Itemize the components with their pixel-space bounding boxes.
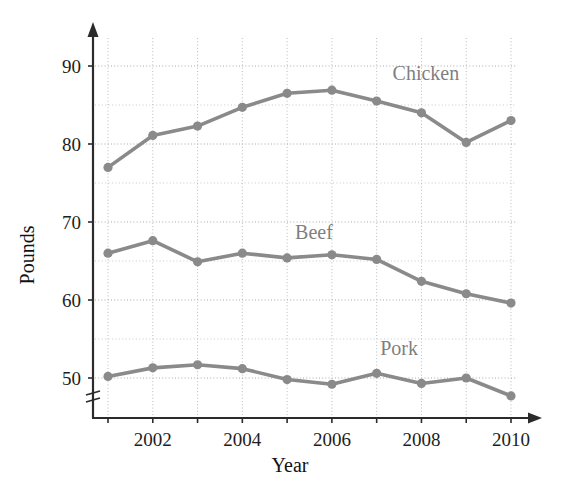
data-point-chicken-2004 xyxy=(238,103,247,112)
data-point-chicken-2007 xyxy=(372,97,381,106)
data-point-beef-2010 xyxy=(506,299,515,308)
data-point-beef-2008 xyxy=(417,277,426,286)
y-tick-label-80: 80 xyxy=(62,134,81,155)
line-chart: 5060708090 20022004200620082010 ChickenB… xyxy=(0,0,572,490)
series-label-beef: Beef xyxy=(295,221,333,243)
data-point-pork-2010 xyxy=(506,391,515,400)
series-label-pork: Pork xyxy=(380,337,418,359)
y-axis-title: Pounds xyxy=(16,225,38,284)
data-point-pork-2003 xyxy=(193,360,202,369)
x-axis-arrow-icon xyxy=(528,413,542,424)
data-point-chicken-2008 xyxy=(417,108,426,117)
data-point-chicken-2006 xyxy=(327,86,336,95)
data-point-pork-2006 xyxy=(327,380,336,389)
data-point-chicken-2005 xyxy=(283,89,292,98)
y-tick-labels: 5060708090 xyxy=(62,56,81,389)
data-point-pork-2001 xyxy=(103,372,112,381)
x-tick-label-2006: 2006 xyxy=(313,429,351,450)
data-point-chicken-2003 xyxy=(193,121,202,130)
chart-canvas: 5060708090 20022004200620082010 ChickenB… xyxy=(0,0,572,490)
data-point-pork-2004 xyxy=(238,364,247,373)
data-point-beef-2001 xyxy=(103,249,112,258)
data-point-beef-2009 xyxy=(462,289,471,298)
x-tick-label-2008: 2008 xyxy=(402,429,440,450)
series-line-beef xyxy=(108,241,511,303)
data-point-chicken-2002 xyxy=(148,131,157,140)
data-point-beef-2003 xyxy=(193,257,202,266)
data-point-chicken-2010 xyxy=(506,116,515,125)
data-point-pork-2005 xyxy=(283,375,292,384)
data-point-pork-2002 xyxy=(148,363,157,372)
y-tick-label-60: 60 xyxy=(62,290,81,311)
series-labels: ChickenBeefPork xyxy=(295,62,459,359)
y-tick-label-50: 50 xyxy=(62,368,81,389)
data-point-beef-2002 xyxy=(148,236,157,245)
data-point-pork-2008 xyxy=(417,379,426,388)
y-tick-label-90: 90 xyxy=(62,56,81,77)
series-label-chicken: Chicken xyxy=(393,62,460,84)
data-point-pork-2007 xyxy=(372,369,381,378)
data-point-beef-2005 xyxy=(283,253,292,262)
data-point-beef-2007 xyxy=(372,255,381,264)
x-tick-label-2004: 2004 xyxy=(223,429,262,450)
series-line-pork xyxy=(108,365,511,396)
y-axis-arrow-icon xyxy=(88,22,99,37)
y-tick-label-70: 70 xyxy=(62,212,81,233)
x-tick-label-2002: 2002 xyxy=(134,429,172,450)
x-tick-label-2010: 2010 xyxy=(492,429,530,450)
data-point-chicken-2001 xyxy=(103,163,112,172)
x-tick-labels: 20022004200620082010 xyxy=(134,429,530,450)
data-point-chicken-2009 xyxy=(462,138,471,147)
series-line-chicken xyxy=(108,90,511,167)
x-axis-title: Year xyxy=(272,454,309,476)
data-point-beef-2006 xyxy=(327,250,336,259)
data-point-beef-2004 xyxy=(238,249,247,258)
data-point-pork-2009 xyxy=(462,373,471,382)
